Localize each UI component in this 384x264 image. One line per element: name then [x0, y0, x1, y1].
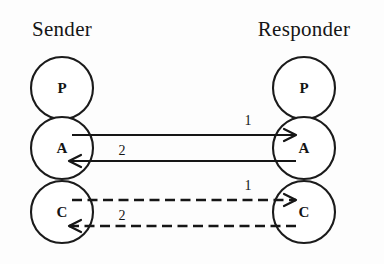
- node-group-sender: P A C: [31, 57, 93, 243]
- edge-label-c-forward: 1: [245, 178, 252, 193]
- node-label-responder-a: A: [299, 140, 310, 156]
- protocol-layer-diagram: Sender Responder P A C P A C 1: [0, 0, 384, 264]
- edge-a-forward[interactable]: 1: [72, 113, 296, 141]
- node-label-responder-p: P: [299, 80, 308, 96]
- edge-c-return[interactable]: 2: [69, 208, 296, 232]
- edge-a-return[interactable]: 2: [69, 143, 296, 167]
- node-group-responder: P A C: [273, 57, 335, 243]
- node-label-sender-p: P: [57, 80, 66, 96]
- diagram-canvas: Sender Responder P A C P A C 1: [0, 0, 384, 264]
- node-label-sender-a: A: [57, 140, 68, 156]
- column-title-responder: Responder: [258, 17, 351, 41]
- edge-label-c-return: 2: [119, 208, 126, 223]
- node-label-responder-c: C: [299, 204, 310, 220]
- edge-label-a-forward: 1: [245, 113, 252, 128]
- edge-c-forward[interactable]: 1: [72, 178, 296, 206]
- node-label-sender-c: C: [57, 204, 68, 220]
- column-title-sender: Sender: [32, 17, 92, 41]
- edge-label-a-return: 2: [119, 143, 126, 158]
